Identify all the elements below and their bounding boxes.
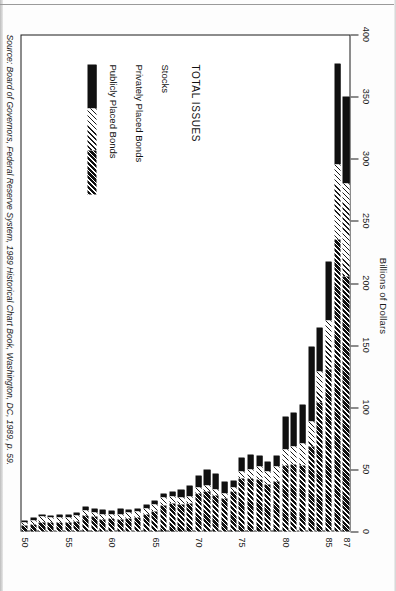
year-axis-tick-label: 80 [280,537,290,547]
bar-segment [47,517,53,522]
bar-row [290,34,296,531]
bar-segment [230,480,236,486]
bar-segment [282,416,288,448]
bar-segment [316,327,322,370]
bar-segment [316,402,322,531]
bar-segment [308,421,314,446]
value-axis-tick [350,96,358,97]
bar-segment [117,508,123,514]
legend-item-label: Stocks [159,64,170,93]
legend: TOTAL ISSUES StocksPrivately Placed Bond… [80,64,200,234]
bar-segment [117,519,123,531]
bar-segment [221,481,227,493]
bar-segment [308,346,314,421]
bar-row [39,34,45,531]
bar-row [30,34,36,531]
bar-segment [47,522,53,531]
year-axis-tick-label: 60 [106,537,116,547]
bar-segment [186,485,192,496]
value-axis-tick [350,469,358,470]
bar-segment [117,514,123,519]
bar-segment [108,514,114,518]
value-axis-tick-label: 150 [360,337,370,353]
bar-segment [282,465,288,531]
bar-segment [204,485,210,491]
bar-row [212,34,218,531]
value-axis-tick [350,345,358,346]
bar-segment [21,525,27,531]
bar-segment [143,508,149,514]
value-axis-tick [350,531,358,532]
bar-segment [151,500,157,504]
bar-segment [325,261,331,319]
bar-segment [290,464,296,531]
bar-row [247,34,253,531]
bar-segment [342,183,348,276]
bar-segment [290,412,296,446]
bar-segment [325,320,331,370]
bar-segment [134,511,140,517]
bar-segment [204,469,210,486]
bar-segment [290,446,296,465]
bar-segment [125,512,131,518]
bar-segment [273,466,279,481]
bar-segment [264,484,270,531]
bar-row [65,34,71,531]
bar-row [273,34,279,531]
bar-segment [247,469,253,479]
bar-row [73,34,79,531]
value-axis-tick-label: 50 [360,464,370,474]
value-axis-tick [350,283,358,284]
bar-row [342,34,348,531]
bar-segment [282,449,288,465]
bar-segment [177,489,183,497]
year-axis-tick-label: 87 [341,537,351,547]
legend-item-swatch [87,64,96,108]
bar-segment [99,519,105,531]
bar-segment [143,504,149,508]
bar-row [256,34,262,531]
bar-row [221,34,227,531]
bar-row [308,34,314,531]
bar-segment [334,63,340,165]
bar-segment [73,521,79,531]
bar-segment [221,493,227,498]
bar-segment [195,487,201,493]
value-axis-tick-label: 400 [360,26,370,42]
bar-segment [230,491,236,531]
bar-segment [134,517,140,531]
bar-segment [177,497,183,504]
bar-segment [299,465,305,531]
bar-row [47,34,53,531]
value-axis-tick [350,220,358,221]
year-axis-tick-label: 70 [193,537,203,547]
source-note: Source: Board of Governors, Federal Rese… [4,34,14,574]
value-axis-tick-label: 250 [360,213,370,229]
bar-segment [56,517,62,522]
bar-segment [256,466,262,478]
bar-segment [82,515,88,531]
bar-segment [73,512,79,516]
value-axis-tick-label: 350 [360,88,370,104]
scanned-page: Billions of Dollars 05010015020025030035… [0,0,396,591]
bar-segment [212,495,218,531]
bar-segment [273,455,279,466]
bar-row [316,34,322,531]
bar-segment [160,505,166,531]
bar-row [264,34,270,531]
bar-segment [177,504,183,531]
year-axis-tick-label: 85 [323,537,333,547]
bar-row [21,34,27,531]
year-axis-tick-label: 50 [19,537,29,547]
bar-segment [39,516,45,521]
bar-segment [247,454,253,469]
bar-segment [39,522,45,531]
bar-row [334,34,340,531]
bar-segment [108,518,114,531]
bar-segment [99,514,105,518]
bar-segment [73,515,79,521]
value-axis-title: Billions of Dollars [377,0,388,591]
bar-segment [91,516,97,531]
bar-row [282,34,288,531]
bar-segment [195,493,201,531]
